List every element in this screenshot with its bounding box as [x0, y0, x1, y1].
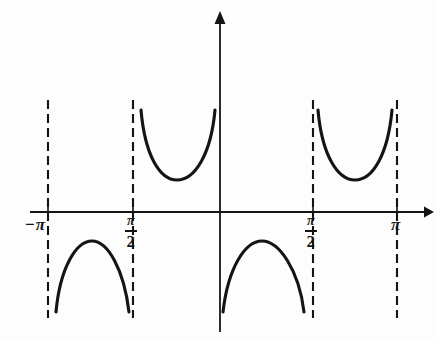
fraction-pi-over-2: π 2: [125, 214, 137, 251]
x-axis-arrowhead: [424, 207, 434, 218]
plot-canvas: [0, 0, 437, 339]
tick-label-pi: π: [391, 216, 400, 233]
secant-graph-figure: −π π 2 π 2 π: [0, 0, 437, 339]
tick-label-neg-pi: −π: [25, 216, 45, 233]
branch-upper-right: [318, 110, 392, 180]
fraction-numerator: π: [305, 214, 317, 229]
branch-lower-left: [56, 241, 129, 312]
tick-label-neg-half-pi: π 2: [125, 214, 137, 251]
tick-label-half-pi: π 2: [305, 214, 317, 251]
y-axis-arrowhead: [215, 11, 226, 24]
minus-sign: −: [25, 215, 35, 234]
fraction-denominator: 2: [305, 232, 317, 252]
pi-glyph: π: [36, 215, 45, 234]
fraction-pi-over-2: π 2: [305, 214, 317, 251]
branch-lower-right: [223, 241, 304, 312]
pi-glyph: π: [391, 215, 400, 234]
branch-upper-left: [141, 110, 215, 180]
fraction-numerator: π: [125, 214, 137, 229]
fraction-denominator: 2: [125, 232, 137, 252]
